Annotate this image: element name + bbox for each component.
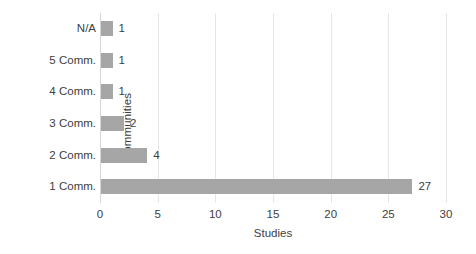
y-tick-label: 5 Comm. xyxy=(12,45,96,77)
bar[interactable] xyxy=(101,179,412,194)
y-tick-label: 2 Comm. xyxy=(12,140,96,172)
bar-row: 2 xyxy=(100,108,446,140)
bar-value-label: 1 xyxy=(119,84,125,99)
bar-row: 1 xyxy=(100,45,446,77)
x-tick-label: 5 xyxy=(138,205,178,223)
bar-value-label: 2 xyxy=(130,116,136,131)
bar-chart: Communities 1 Comm.2 Comm.3 Comm.4 Comm.… xyxy=(0,0,476,254)
bar[interactable] xyxy=(101,116,124,131)
bar-row: 4 xyxy=(100,140,446,172)
x-tick-label: 30 xyxy=(426,205,466,223)
bar[interactable] xyxy=(101,53,113,68)
y-tick-label: N/A xyxy=(12,13,96,45)
bar[interactable] xyxy=(101,148,147,163)
x-tick-label: 10 xyxy=(195,205,235,223)
gridline-30 xyxy=(446,13,447,203)
bar-row: 1 xyxy=(100,76,446,108)
bar-value-label: 4 xyxy=(153,148,159,163)
y-tick-label: 4 Comm. xyxy=(12,76,96,108)
y-tick-label: 3 Comm. xyxy=(12,108,96,140)
x-tick-label: 15 xyxy=(253,205,293,223)
bar-value-label: 1 xyxy=(119,21,125,36)
bar[interactable] xyxy=(101,84,113,99)
bar-value-label: 27 xyxy=(418,179,431,194)
x-axis-tick-labels: 051015202530 xyxy=(100,205,446,223)
y-tick-label: 1 Comm. xyxy=(12,171,96,203)
bar[interactable] xyxy=(101,21,113,36)
x-axis-title-label: Studies xyxy=(100,227,446,239)
plot-area: 2742111 xyxy=(100,13,446,203)
bar-row: 1 xyxy=(100,13,446,45)
x-tick-label: 20 xyxy=(311,205,351,223)
bar-value-label: 1 xyxy=(119,53,125,68)
bar-row: 27 xyxy=(100,171,446,203)
x-tick-label: 0 xyxy=(80,205,120,223)
x-tick-label: 25 xyxy=(368,205,408,223)
y-axis-tick-labels: 1 Comm.2 Comm.3 Comm.4 Comm.5 Comm.N/A xyxy=(8,13,96,203)
